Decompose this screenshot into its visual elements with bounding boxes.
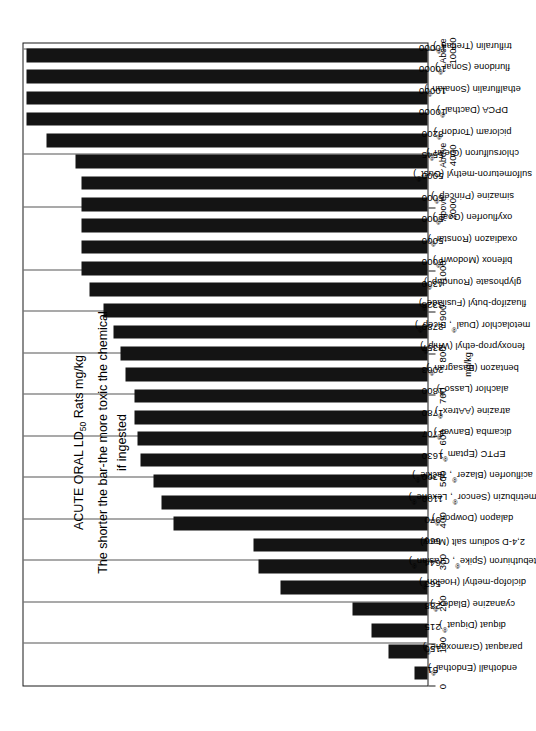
bar-slot [23,129,427,150]
axis-tick [428,270,435,271]
bar-slot [23,470,427,491]
registered-mark: ® [427,89,432,96]
bar-slot [23,193,427,214]
axis-tick [428,207,435,208]
bar [414,666,427,680]
bar [137,431,427,445]
category-label: bifenox (Modown®) [432,255,512,267]
category-label: dalapon (Dowpon®) [431,513,513,525]
bar [134,410,427,424]
category-label: metolachlor (Dual®, Bicep®) [414,320,529,332]
registered-mark: ® [439,389,444,396]
bar [26,91,427,105]
registered-mark: ® [429,153,434,160]
bar [75,154,427,168]
category-label: acifluorfen (Blazer®, Tackle®) [412,470,533,482]
bar-slot [23,342,427,363]
registered-mark: ® [440,110,445,117]
bar [81,240,427,254]
bar-slot [23,87,427,108]
bar [81,176,427,190]
registered-mark: ® [452,475,457,482]
registered-mark: ® [429,368,434,375]
bar-slot [23,449,427,470]
bar-slot [23,491,427,512]
bar-slot [23,44,427,65]
bar-slot [23,300,427,321]
category-label: ethalfluralin (Sonalan®) [424,84,521,96]
category-label: glyphosate (Roundup®) [423,277,520,289]
category-label: alachlor (Lasso®) [436,384,508,396]
category-label: trifluralin (Treflan®) [433,41,512,53]
registered-mark: ® [435,260,440,267]
bar-slot [23,172,427,193]
bar [125,367,427,381]
registered-mark: ® [431,668,436,675]
registered-mark: ® [438,67,443,74]
category-label: bentazon (Basagran®) [426,363,519,375]
registered-mark: ® [417,325,422,332]
bar-slot [23,598,427,619]
bar-slot [23,406,427,427]
category-label: tebuthiuron (Spike®, Graslan®) [408,556,536,568]
bar [280,580,427,594]
category-label: fluazifop-butyl (Fusilade®) [418,298,526,310]
bar-slot [23,555,427,576]
bar-slot [23,513,427,534]
registered-mark: ® [416,174,421,181]
bar-slot [23,640,427,661]
bar [153,474,427,488]
category-label: 2,4-D sodium salt (Many) [419,536,524,546]
plot-area: ACUTE ORAL LD50 Rats mg/kg The shorter t… [22,42,428,686]
category-label: EPTC (Eptam®) [439,449,505,461]
bar [120,346,427,360]
registered-mark: ® [436,432,441,439]
category-label: paraquat (Gramoxone®) [422,642,522,654]
category-label: cyanazine (Bladex®) [430,599,515,611]
category-label: sulfometuron-methyl (Oust®) [413,169,532,181]
bar-slot [23,236,427,257]
registered-mark: ® [422,582,427,589]
category-label: chlorsulfuron (Glean®) [426,148,519,160]
bar [161,495,427,509]
bar [253,538,427,552]
registered-mark: ® [454,561,459,568]
category-label: oxyfluorfen (Goal®) [432,212,512,224]
bar-slot [23,577,427,598]
bar-slot [23,619,427,640]
category-label: diquat (Diquat®) [439,620,506,632]
axis-tick-label: 0 [437,683,447,688]
category-label: oxadiazon (Ronstar®) [427,234,517,246]
registered-mark: ® [435,217,440,224]
category-label: atrazine (AAtrex®) [434,406,510,418]
bar [352,602,427,616]
bar [258,559,427,573]
registered-mark: ® [411,561,416,568]
bar [81,218,427,232]
registered-mark: ® [433,604,438,611]
axis-tick [428,685,435,686]
bar [26,48,427,62]
bar-slot [23,364,427,385]
bar [89,282,427,296]
bar-slot [23,662,427,683]
bar-series [23,43,427,685]
registered-mark: ® [434,518,439,525]
bar-value-label: 215 [424,621,440,632]
category-label: dicamba (Banvel®) [433,427,511,439]
registered-mark: ® [423,346,428,353]
bar [388,644,427,658]
registered-mark: ® [430,239,435,246]
category-label: simazine (Princep®) [431,191,514,203]
category-label: metribuzin (Sencor®, Lexone®) [408,491,536,503]
registered-mark: ® [436,46,441,53]
bar-slot [23,385,427,406]
bar [140,453,427,467]
bar-slot [23,214,427,235]
registered-mark: ® [451,325,456,332]
bar-slot [23,321,427,342]
registered-mark: ® [452,497,457,504]
registered-mark: ® [415,475,420,482]
bar-slot [23,257,427,278]
